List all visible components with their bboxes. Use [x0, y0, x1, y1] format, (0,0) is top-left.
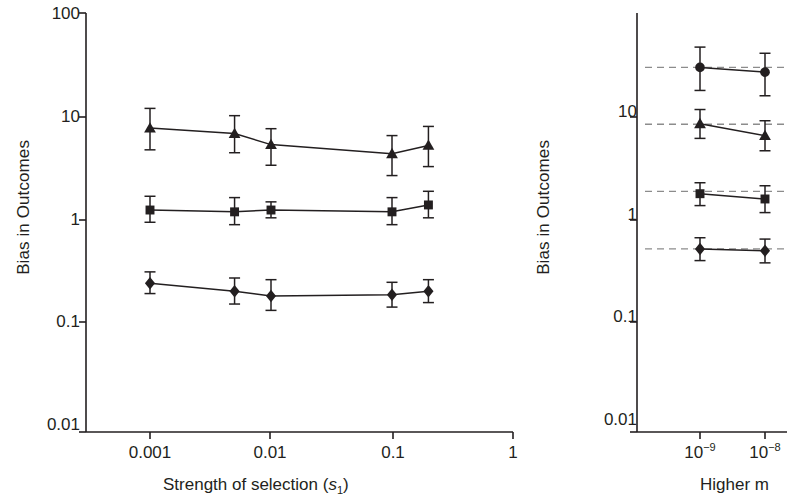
square-marker: [696, 189, 705, 198]
diamond-marker: [695, 243, 705, 255]
square-marker: [146, 206, 155, 215]
triangle-series: [144, 108, 434, 175]
square-marker: [230, 207, 239, 216]
right-data-layer: [645, 47, 787, 263]
diamond-series: [145, 272, 434, 310]
triangle-marker: [694, 118, 706, 128]
diamond-marker: [423, 285, 433, 297]
square-marker: [267, 206, 276, 215]
square-marker: [388, 207, 397, 216]
square-marker: [761, 195, 770, 204]
diamond-marker: [266, 290, 276, 302]
left-chart-panel: Bias in Outcomes 100 10 1 0.1 0.01 0.001…: [0, 0, 530, 502]
diamond-marker: [229, 285, 239, 297]
square-marker: [424, 200, 433, 209]
diamond-marker: [387, 289, 397, 301]
series-line: [700, 124, 765, 136]
left-plot-svg: [0, 0, 530, 502]
series-line: [700, 194, 765, 199]
triangle-marker: [423, 140, 435, 150]
diamond-marker: [145, 277, 155, 289]
right-plot-svg: [530, 0, 787, 502]
circle-series: [695, 47, 771, 96]
left-data-layer: [144, 108, 434, 310]
series-line: [150, 283, 428, 296]
square-series: [695, 183, 771, 213]
series-line: [700, 67, 765, 72]
circle-marker: [760, 67, 770, 77]
right-y-ticks: [630, 117, 637, 432]
square-series: [145, 191, 434, 224]
left-x-ticks: [150, 432, 513, 439]
triangle-marker: [144, 122, 156, 132]
diamond-marker: [760, 245, 770, 257]
right-chart-panel: Bias in Outcomes 10 1 0.1 0.01 10−9 10−8…: [530, 0, 787, 502]
right-x-ticks: [700, 432, 765, 439]
series-line: [150, 128, 428, 154]
series-line: [150, 205, 428, 212]
circle-marker: [695, 63, 705, 73]
triangle-series: [694, 110, 771, 151]
diamond-series: [695, 238, 771, 263]
left-y-ticks: [79, 13, 86, 432]
